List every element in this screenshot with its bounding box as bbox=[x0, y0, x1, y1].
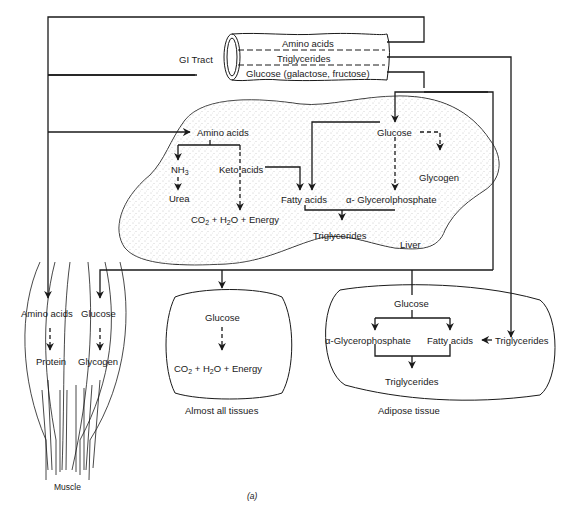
tissues-glucose: Glucose bbox=[205, 312, 240, 323]
liver-glucose: Glucose bbox=[377, 127, 412, 138]
gi-channel-amino-acids: Amino acids bbox=[282, 38, 334, 49]
tissues-label: Almost all tissues bbox=[185, 405, 258, 416]
liver-nh3: NH3 bbox=[171, 164, 189, 178]
gi-channel-triglycerides: Triglycerides bbox=[277, 53, 331, 64]
figure-label: (a) bbox=[247, 491, 257, 502]
liver-energy: CO2 + H2O + Energy bbox=[191, 214, 279, 228]
muscle-label: Muscle bbox=[54, 482, 81, 493]
adipose-triglycerides-out: Triglycerides bbox=[385, 376, 439, 387]
muscle-shape bbox=[25, 262, 126, 480]
liver-amino-acids: Amino acids bbox=[197, 127, 249, 138]
liver-fatty-acids: Fatty acids bbox=[281, 194, 327, 205]
muscle-protein: Protein bbox=[36, 356, 66, 367]
adipose-triglycerides-in: Triglycerides bbox=[495, 335, 549, 346]
tissues-shape bbox=[166, 290, 292, 400]
gi-tract-label: GI Tract bbox=[179, 54, 213, 65]
tissues-energy: CO2 + H2O + Energy bbox=[174, 363, 262, 377]
gi-channel-glucose: Glucose (galactose, fructose) bbox=[246, 68, 370, 79]
adipose-fatty-acids: Fatty acids bbox=[427, 335, 473, 346]
muscle-glycogen: Glycogen bbox=[78, 356, 118, 367]
liver-urea: Urea bbox=[169, 193, 190, 204]
liver-keto-acids: Keto acids bbox=[219, 164, 263, 175]
adipose-glycerophosphate: α-Glycerophosphate bbox=[325, 335, 411, 346]
adipose-glucose: Glucose bbox=[394, 298, 429, 309]
liver-triglycerides: Triglycerides bbox=[313, 230, 367, 241]
liver-label: Liver bbox=[400, 239, 421, 250]
liver-glycogen: Glycogen bbox=[419, 172, 459, 183]
liver-glycerolphosphate: α- Glycerolphosphate bbox=[346, 194, 437, 205]
adipose-label: Adipose tissue bbox=[378, 405, 440, 416]
muscle-amino-acids: Amino acids bbox=[21, 308, 73, 319]
muscle-glucose: Glucose bbox=[81, 308, 116, 319]
